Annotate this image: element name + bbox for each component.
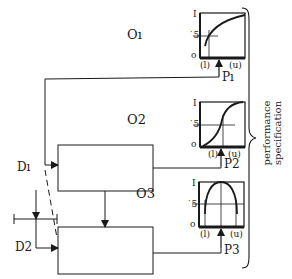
output-label-o3: O3 (136, 186, 155, 201)
param-label-p1: Pı (222, 70, 234, 84)
axis-mid-2: ˙5 (189, 119, 199, 129)
performance-specification-label: performance specification (261, 93, 283, 173)
axis-top-1: I (193, 9, 197, 19)
axis-mid-3: ˙5 (187, 199, 197, 209)
axis-lower-3: (l) (200, 229, 210, 239)
disturbance-label-d1: Dı (17, 160, 30, 174)
param-label-p2: P2 (224, 157, 240, 171)
axis-bottom-2: o (191, 139, 196, 149)
axis-top-2: I (193, 98, 197, 108)
axis-upper-3: (u) (230, 229, 243, 239)
axis-mid-1: ˙5 (189, 30, 199, 40)
axis-bottom-3: o (190, 219, 195, 229)
axis-lower-1: (l) (200, 60, 210, 70)
axis-upper-1: (u) (229, 60, 242, 70)
axis-bottom-1: o (191, 50, 196, 60)
param-label-p3: P3 (224, 243, 240, 257)
output-label-o1: Oı (127, 27, 142, 42)
axis-top-3: I (192, 178, 196, 188)
output-label-o2: O2 (127, 112, 146, 127)
axis-lower-2: (l) (208, 149, 218, 159)
disturbance-label-d2: D2 (15, 240, 32, 254)
